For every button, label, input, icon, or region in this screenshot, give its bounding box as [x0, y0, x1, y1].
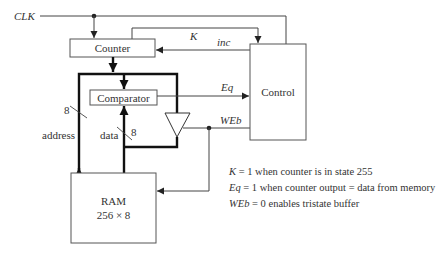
note-eq-text: = 1 when counter output = data from memo… [241, 182, 436, 193]
note-k: K = 1 when counter is in state 255 [229, 166, 373, 177]
note-web-text: = 0 enables tristate buffer [249, 198, 359, 209]
control-block: Control [250, 44, 306, 140]
note-web-var: WEb [229, 198, 249, 209]
block-diagram: CLK K inc Counter Comparator Eq WEb Cont… [0, 0, 448, 255]
eq-label: Eq [220, 81, 234, 93]
clk-label: CLK [14, 10, 35, 22]
k-label: K [189, 30, 198, 42]
comparator-block: Comparator [90, 90, 157, 105]
address-label: address [42, 129, 75, 141]
data-label: data [100, 129, 118, 141]
ram-size: 256 × 8 [97, 209, 131, 221]
tristate-buffer-icon [165, 113, 190, 137]
data-width-label: 8 [131, 126, 137, 138]
counter-block: Counter [70, 39, 155, 57]
note-eq: Eq = 1 when counter output = data from m… [229, 182, 435, 193]
address-width-label: 8 [64, 104, 70, 116]
inc-label: inc [217, 36, 231, 48]
tristate-output-bus [124, 137, 177, 147]
control-label: Control [261, 86, 295, 98]
web-label: WEb [220, 114, 242, 126]
ram-title: RAM [101, 195, 126, 207]
note-k-var: K [229, 166, 236, 177]
ram-block: RAM 256 × 8 [71, 173, 156, 243]
note-web: WEb = 0 enables tristate buffer [229, 198, 359, 209]
counter-label: Counter [95, 42, 131, 54]
comparator-label: Comparator [97, 92, 150, 104]
note-eq-var: Eq [229, 182, 241, 193]
web-to-ram-wire [157, 128, 209, 191]
note-k-text: = 1 when counter is in state 255 [236, 166, 373, 177]
